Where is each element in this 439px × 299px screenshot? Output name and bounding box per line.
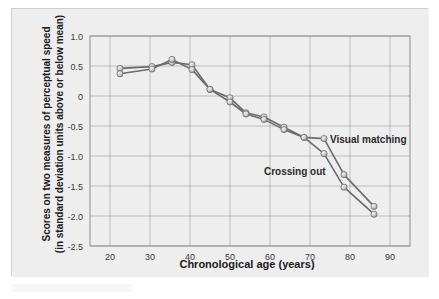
y-tick-label: -2.0 — [67, 212, 83, 222]
x-tick-label: 80 — [345, 252, 355, 262]
data-point-marker — [227, 99, 233, 105]
y-tick-label: 1.0 — [70, 32, 83, 42]
data-point-marker — [341, 184, 347, 190]
x-tick-label: 90 — [385, 252, 395, 262]
data-point-marker — [341, 172, 347, 178]
series-label: Crossing out — [264, 166, 326, 177]
data-point-marker — [321, 136, 327, 142]
data-point-marker — [371, 211, 377, 217]
y-axis-title-line2: (in standard deviation units above or be… — [54, 15, 65, 253]
y-tick-label: -2.5 — [67, 242, 83, 252]
data-point-marker — [117, 71, 123, 77]
series-label: Visual matching — [330, 134, 407, 145]
x-axis-title: Chronological age (years) — [179, 258, 314, 270]
y-tick-label: 0.5 — [70, 62, 83, 72]
figure-container: 1.00.50-0.5-1.0-1.5-2.0-2.5 203040506070… — [11, 8, 428, 276]
perceptual-speed-line-chart: 1.00.50-0.5-1.0-1.5-2.0-2.5 203040506070… — [12, 9, 429, 277]
y-tick-label: -0.5 — [67, 122, 83, 132]
data-point-marker — [261, 116, 267, 122]
data-point-marker — [321, 151, 327, 157]
data-point-marker — [301, 134, 307, 140]
data-point-marker — [243, 111, 249, 117]
data-point-marker — [169, 56, 175, 62]
data-point-marker — [149, 66, 155, 72]
y-axis-title-line1: Scores on two measures of perceptual spe… — [41, 26, 52, 241]
data-point-marker — [371, 203, 377, 209]
y-tick-label: -1.5 — [67, 182, 83, 192]
y-tick-label: 0 — [78, 92, 83, 102]
data-point-marker — [189, 67, 195, 73]
page-artifact — [12, 284, 132, 292]
data-point-marker — [281, 127, 287, 133]
y-tick-label: -1.0 — [67, 152, 83, 162]
x-tick-label: 30 — [145, 252, 155, 262]
chart-plot-area: 1.00.50-0.5-1.0-1.5-2.0-2.5 203040506070… — [12, 9, 429, 277]
data-point-marker — [207, 86, 213, 92]
x-tick-label: 20 — [105, 252, 115, 262]
